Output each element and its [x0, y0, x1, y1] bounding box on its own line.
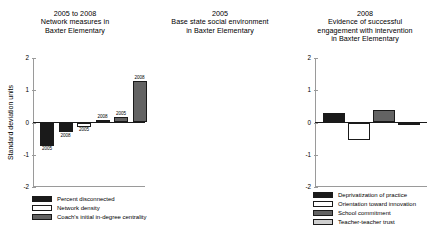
bar-value-label: 2005 — [37, 146, 57, 151]
panel-title-line: in Baxter Elementary — [290, 35, 440, 43]
y-axis-tick — [32, 58, 36, 59]
bar — [59, 123, 73, 133]
legend-label: Network density — [57, 205, 100, 212]
legend-swatch — [32, 205, 52, 211]
y-axis-tick-label: 1 — [25, 87, 29, 93]
legend-item: Percent disconnected — [32, 196, 147, 203]
bar-value-label: 2008 — [56, 133, 76, 138]
y-axis-tick — [32, 187, 36, 188]
y-axis-tick-label: -2 — [23, 184, 29, 190]
legend-swatch — [32, 214, 52, 220]
bar-value-label: 2005 — [74, 127, 94, 132]
legend-swatch — [32, 196, 52, 202]
panel-title: 2005 to 2008 Network measures in Baxter … — [0, 10, 150, 35]
bar — [40, 123, 54, 146]
y-axis-tick-label: 2 — [25, 55, 29, 61]
panel-legend: Percent disconnectedNetwork densityCoach… — [32, 196, 147, 223]
y-axis-tick — [32, 123, 36, 124]
zero-line — [33, 122, 145, 123]
legend-label: Percent disconnected — [57, 196, 115, 203]
panel-title: 2008 Evidence of successful engagement w… — [290, 10, 440, 44]
y-axis-tick-label: -1 — [23, 152, 29, 158]
bar — [133, 81, 147, 123]
y-axis-tick — [32, 155, 36, 156]
y-axis-tick-label: 0 — [25, 120, 29, 126]
plot-area: 200520082005200820052008 210-1-2 — [33, 58, 145, 187]
panel-network-measures: 2005 to 2008 Network measures in Baxter … — [0, 0, 150, 241]
panel-evidence-of-engagement: 2008 Evidence of successful engagement w… — [290, 0, 440, 241]
panel-base-state-social-environment: 2005 Base state social environment in Ba… — [150, 0, 290, 241]
legend-item: Coach's initial in-degree centrality — [32, 214, 147, 221]
y-axis-tick — [32, 90, 36, 91]
panel-title-line: Baxter Elementary — [0, 27, 150, 35]
legend-item: Network density — [32, 205, 147, 212]
bar-value-label: 2008 — [130, 75, 150, 80]
panel-title-line: in Baxter Elementary — [150, 27, 290, 35]
figure-three-panel-bar-chart: Standard deviation units 2005 to 2008 Ne… — [0, 0, 440, 241]
bar-value-label: 2008 — [93, 114, 113, 119]
bar-value-label: 2005 — [111, 111, 131, 116]
panel-title: 2005 Base state social environment in Ba… — [150, 10, 290, 35]
legend-label: Coach's initial in-degree centrality — [57, 214, 147, 221]
